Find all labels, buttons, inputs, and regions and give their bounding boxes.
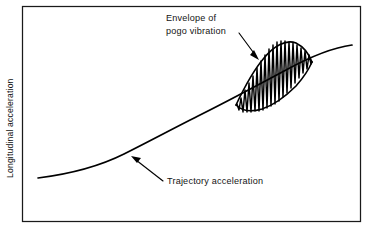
trajectory-acceleration-curve	[38, 45, 352, 178]
figure-border	[23, 7, 361, 222]
y-axis-label: Longitudinal acceleration	[5, 78, 15, 178]
envelope-leader-arrowhead	[250, 50, 259, 60]
figure-container: Longitudinal acceleration Envelope of po…	[0, 0, 368, 232]
trajectory-leader-line	[136, 160, 163, 181]
envelope-annotation-line1: Envelope of	[166, 13, 217, 23]
trajectory-annotation-label: Trajectory acceleration	[167, 176, 263, 186]
diagram-canvas: Longitudinal acceleration Envelope of po…	[0, 0, 368, 232]
trajectory-leader-arrowhead	[131, 156, 141, 163]
envelope-annotation-line2: pogo vibration	[166, 26, 226, 36]
pogo-oscillation-waveform	[237, 41, 312, 112]
